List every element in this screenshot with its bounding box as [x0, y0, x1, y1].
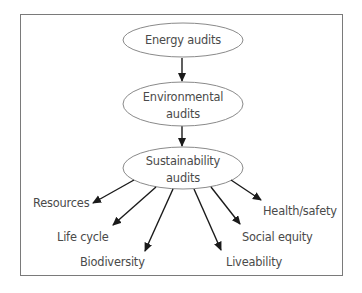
node-label-line-1: Sustainability	[146, 154, 221, 168]
leaf-biodiversity: Biodiversity	[80, 255, 145, 269]
node-label-line-1: Environmental	[143, 90, 223, 104]
arrow-to-life-cycle	[113, 187, 156, 225]
arrow-to-health-safety	[231, 180, 261, 200]
arrow-to-resources	[93, 180, 134, 203]
node-label-line-2: audits	[166, 107, 200, 121]
node-label-line-2: audits	[166, 171, 200, 185]
arrow-to-social-equity	[211, 187, 240, 224]
node-label: Energy audits	[145, 33, 221, 47]
flowchart: Energy audits Environmental audits Susta…	[0, 0, 362, 293]
node-energy-audits: Energy audits	[123, 23, 243, 57]
leaf-health-safety: Health/safety	[263, 204, 337, 218]
leaf-social-equity: Social equity	[242, 230, 313, 244]
leaf-life-cycle: Life cycle	[57, 230, 109, 244]
arrow-to-liveability	[194, 189, 221, 250]
leaf-resources: Resources	[33, 196, 90, 210]
node-sustainability-audits: Sustainability audits	[123, 147, 243, 189]
node-environmental-audits: Environmental audits	[123, 82, 243, 126]
arrow-to-biodiversity	[145, 189, 173, 251]
leaf-liveability: Liveability	[226, 255, 282, 269]
